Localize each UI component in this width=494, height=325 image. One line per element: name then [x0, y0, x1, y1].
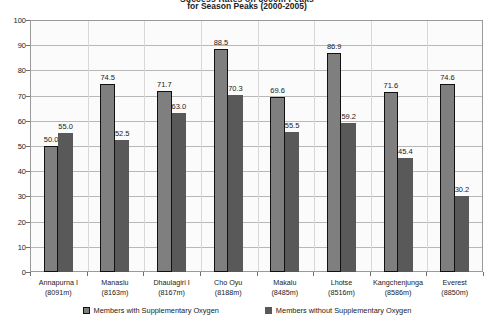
- bar-chart: Success Rates on 8000m Peaks for Season …: [0, 0, 494, 325]
- category-altitude: (8850m): [441, 288, 468, 298]
- x-axis-tick-mark: [143, 272, 144, 276]
- y-axis-tick-label: 20: [0, 217, 26, 226]
- bar-without-oxygen[interactable]: [285, 132, 300, 272]
- category-name: Lhotse: [328, 278, 355, 288]
- bar-value-label: 70.3: [228, 84, 243, 93]
- bar-with-oxygen[interactable]: [327, 53, 342, 272]
- category-altitude: (8167m): [153, 288, 189, 298]
- x-axis-category-label: Kangchenjunga(8586m): [373, 278, 423, 298]
- x-axis-category-label: Manaslu(8163m): [101, 278, 128, 298]
- bar-value-label: 45.4: [398, 147, 413, 156]
- category-name: Manaslu: [101, 278, 128, 288]
- y-axis-tick-label: 100: [0, 16, 26, 25]
- bar-without-oxygen[interactable]: [58, 133, 73, 272]
- y-axis-tick-label: 90: [0, 41, 26, 50]
- category-name: Makalu: [271, 278, 298, 288]
- legend-swatch-icon-with-oxygen: [83, 307, 90, 314]
- x-axis-tick-mark: [370, 272, 371, 276]
- x-axis-category-label: Annapurna I(8091m): [39, 278, 78, 298]
- bar-value-label: 74.5: [100, 73, 115, 82]
- bar-value-label: 55.5: [285, 121, 300, 130]
- bar-without-oxygen[interactable]: [172, 113, 187, 272]
- y-axis-tick-label: 70: [0, 91, 26, 100]
- y-axis-tick-label: 80: [0, 66, 26, 75]
- x-axis-category-label: Cho Oyu(8188m): [214, 278, 242, 298]
- bar-without-oxygen[interactable]: [455, 196, 470, 272]
- category-name: Kangchenjunga: [373, 278, 423, 288]
- x-axis-tick-mark: [426, 272, 427, 276]
- category-name: Cho Oyu: [214, 278, 242, 288]
- x-axis-tick-mark: [483, 272, 484, 276]
- bar-value-label: 30.2: [455, 185, 470, 194]
- x-axis-tick-mark: [257, 272, 258, 276]
- bar-with-oxygen[interactable]: [214, 49, 229, 272]
- legend-item-with-oxygen[interactable]: Members with Supplementary Oxygen: [83, 306, 219, 315]
- x-axis-category-label: Makalu(8485m): [271, 278, 298, 298]
- bar-value-label: 71.6: [384, 81, 399, 90]
- legend-label-with-oxygen: Members with Supplementary Oxygen: [94, 306, 219, 315]
- bar-value-label: 50.0: [44, 135, 59, 144]
- category-altitude: (8188m): [214, 288, 242, 298]
- bar-without-oxygen[interactable]: [341, 123, 356, 272]
- y-axis-tick-label: 30: [0, 192, 26, 201]
- bar-without-oxygen[interactable]: [115, 140, 130, 272]
- bar-value-label: 86.9: [327, 42, 342, 51]
- category-altitude: (8485m): [271, 288, 298, 298]
- legend-swatch-icon-without-oxygen: [265, 307, 272, 314]
- bar-value-label: 71.7: [157, 80, 172, 89]
- category-name: Everest: [441, 278, 468, 288]
- x-axis-tick-mark: [200, 272, 201, 276]
- bar-value-label: 69.6: [270, 86, 285, 95]
- y-axis-tick-label: 50: [0, 142, 26, 151]
- x-axis-category-label: Lhotse(8516m): [328, 278, 355, 298]
- bars-layer: 50.055.074.552.571.763.088.570.369.655.5…: [30, 20, 483, 272]
- bar-value-label: 59.2: [341, 112, 356, 121]
- bar-with-oxygen[interactable]: [270, 97, 285, 272]
- category-altitude: (8091m): [39, 288, 78, 298]
- bar-with-oxygen[interactable]: [384, 92, 399, 272]
- category-name: Annapurna I: [39, 278, 78, 288]
- y-axis-tick-label: 10: [0, 242, 26, 251]
- category-altitude: (8516m): [328, 288, 355, 298]
- legend-item-without-oxygen[interactable]: Members without Supplementary Oxygen: [265, 306, 412, 315]
- x-axis-category-label: Dhaulagiri I(8167m): [153, 278, 189, 298]
- bar-with-oxygen[interactable]: [100, 84, 115, 272]
- bar-without-oxygen[interactable]: [228, 95, 243, 272]
- bar-value-label: 63.0: [172, 102, 187, 111]
- chart-subtitle: for Season Peaks (2000-2005): [0, 1, 494, 11]
- bar-value-label: 55.0: [58, 122, 73, 131]
- bar-value-label: 52.5: [115, 129, 130, 138]
- x-axis-tick-mark: [30, 272, 31, 276]
- chart-legend: Members with Supplementary Oxygen Member…: [0, 306, 494, 315]
- legend-label-without-oxygen: Members without Supplementary Oxygen: [276, 306, 412, 315]
- category-name: Dhaulagiri I: [153, 278, 189, 288]
- bar-with-oxygen[interactable]: [44, 146, 59, 272]
- x-axis-category-label: Everest(8850m): [441, 278, 468, 298]
- y-axis-tick-label: 0: [0, 268, 26, 277]
- x-axis-tick-mark: [87, 272, 88, 276]
- x-axis-tick-mark: [313, 272, 314, 276]
- category-altitude: (8586m): [373, 288, 423, 298]
- bar-with-oxygen[interactable]: [440, 84, 455, 272]
- bar-with-oxygen[interactable]: [157, 91, 172, 272]
- bar-without-oxygen[interactable]: [398, 158, 413, 272]
- category-altitude: (8163m): [101, 288, 128, 298]
- bar-value-label: 88.5: [214, 38, 229, 47]
- y-axis-tick-label: 40: [0, 167, 26, 176]
- bar-value-label: 74.6: [440, 73, 455, 82]
- y-axis-tick-label: 60: [0, 116, 26, 125]
